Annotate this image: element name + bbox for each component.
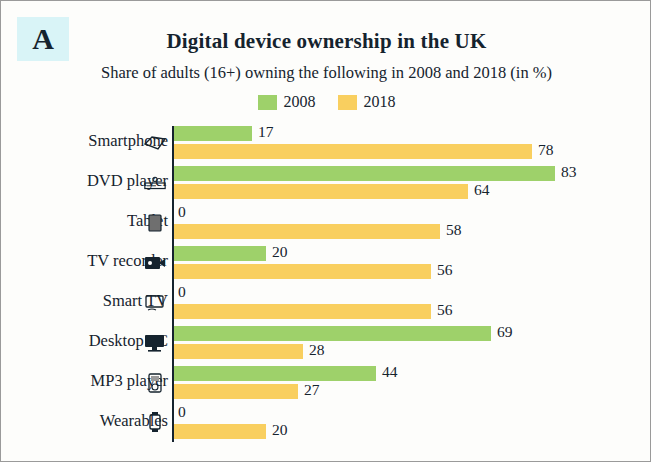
bar-group: 83 64	[174, 163, 634, 203]
bar-value-2018: 20	[272, 421, 288, 439]
desktop-pc-icon	[143, 330, 167, 356]
bar-value-2018: 56	[437, 261, 453, 279]
bar-2018	[174, 264, 431, 279]
smart-tv-icon	[143, 290, 167, 316]
bar-value-2008: 0	[178, 283, 186, 301]
chart-row: Smartphone 17 78	[19, 123, 634, 163]
bar-value-2018: 64	[474, 181, 490, 199]
bar-2008	[174, 166, 555, 181]
plot-area: Smartphone 17 78 DVD player	[19, 123, 634, 445]
chart-row: Wearables 0 20	[19, 403, 634, 443]
bar-2008	[174, 326, 491, 341]
bar-value-2008: 17	[258, 123, 274, 141]
bar-2018	[174, 184, 468, 199]
smartphone-icon	[143, 130, 167, 156]
bar-group: 0 58	[174, 203, 634, 243]
bar-value-2008: 20	[272, 243, 288, 261]
legend-item-2018: 2018	[338, 93, 396, 111]
bar-group: 44 27	[174, 363, 634, 403]
chart-row: MP3 player 44 27	[19, 363, 634, 403]
bar-2018	[174, 144, 532, 159]
bar-group: 69 28	[174, 323, 634, 363]
bar-group: 20 56	[174, 243, 634, 283]
bar-2018	[174, 224, 440, 239]
bar-2008	[174, 246, 266, 261]
bar-2018	[174, 424, 266, 439]
wearables-icon	[143, 410, 167, 436]
bar-value-2008: 69	[497, 323, 513, 341]
bar-2018	[174, 384, 298, 399]
bar-group: 0 20	[174, 403, 634, 443]
bar-value-2008: 0	[178, 203, 186, 221]
chart-figure: A Digital device ownership in the UK Sha…	[0, 0, 651, 462]
bar-value-2008: 0	[178, 403, 186, 421]
bar-2008	[174, 126, 252, 141]
bar-2018	[174, 304, 431, 319]
chart-row: Desktop PC 69 28	[19, 323, 634, 363]
dvd-player-icon	[143, 170, 167, 196]
tv-recorder-icon	[143, 250, 167, 276]
chart-row: TV recorder 20 56	[19, 243, 634, 283]
chart-legend: 2008 2018	[1, 93, 651, 111]
chart-subtitle: Share of adults (16+) owning the followi…	[1, 63, 651, 83]
legend-label-2018: 2018	[364, 93, 396, 111]
bar-value-2018: 56	[437, 301, 453, 319]
chart-row: Tablet 0 58	[19, 203, 634, 243]
legend-label-2008: 2008	[284, 93, 316, 111]
bar-value-2018: 28	[309, 341, 325, 359]
bar-group: 0 56	[174, 283, 634, 323]
legend-swatch-2008	[258, 95, 277, 110]
bar-value-2018: 27	[304, 381, 320, 399]
bar-value-2008: 83	[561, 163, 577, 181]
chart-row: Smart TV 0 56	[19, 283, 634, 323]
bar-2018	[174, 344, 303, 359]
legend-item-2008: 2008	[258, 93, 316, 111]
mp3-player-icon	[143, 370, 167, 396]
bar-value-2008: 44	[382, 363, 398, 381]
bar-value-2018: 78	[538, 141, 554, 159]
chart-row: DVD player 83 64	[19, 163, 634, 203]
chart-title: Digital device ownership in the UK	[1, 29, 651, 54]
bar-2008	[174, 366, 376, 381]
legend-swatch-2018	[338, 95, 357, 110]
bar-value-2018: 58	[446, 221, 462, 239]
bar-group: 17 78	[174, 123, 634, 163]
tablet-icon	[143, 210, 167, 236]
